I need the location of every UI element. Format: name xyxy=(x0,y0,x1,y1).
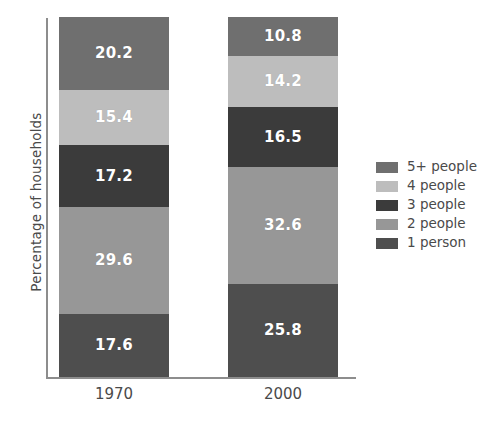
legend-item-label: 4 people xyxy=(407,179,466,193)
bar-stack: 10.8 14.2 16.5 32.6 25.8 xyxy=(228,17,338,377)
legend-item-label: 3 people xyxy=(407,198,466,212)
x-tick-label-1970: 1970 xyxy=(44,385,184,403)
legend-swatch-icon xyxy=(376,181,398,192)
bar-segment-1-person-1970[interactable]: 17.6 xyxy=(59,314,169,377)
bar-segment-value: 32.6 xyxy=(264,218,302,233)
legend-item-5plus-people[interactable]: 5+ people xyxy=(376,160,477,174)
legend-item-label: 2 people xyxy=(407,217,466,231)
bar-segment-4-people-2000[interactable]: 14.2 xyxy=(228,56,338,107)
legend-item-1-person[interactable]: 1 person xyxy=(376,236,477,250)
legend-item-label: 1 person xyxy=(407,236,466,250)
bar-segment-value: 14.2 xyxy=(264,74,302,89)
bar-segment-1-person-2000[interactable]: 25.8 xyxy=(228,284,338,377)
legend-swatch-icon xyxy=(376,162,398,173)
bar-segment-value: 10.8 xyxy=(264,29,302,44)
legend-item-label: 5+ people xyxy=(407,160,477,174)
bar-segment-2-people-2000[interactable]: 32.6 xyxy=(228,167,338,284)
bar-segment-2-people-1970[interactable]: 29.6 xyxy=(59,207,169,314)
legend-item-2-people[interactable]: 2 people xyxy=(376,217,477,231)
bar-segment-value: 25.8 xyxy=(264,323,302,338)
bar-segment-4-people-1970[interactable]: 15.4 xyxy=(59,90,169,145)
legend-swatch-icon xyxy=(376,238,398,249)
bar-segment-value: 15.4 xyxy=(95,110,133,125)
bar-column-2000: 10.8 14.2 16.5 32.6 25.8 xyxy=(228,17,338,377)
bar-segment-3-people-2000[interactable]: 16.5 xyxy=(228,107,338,166)
bar-segment-5plus-people-2000[interactable]: 10.8 xyxy=(228,17,338,56)
legend-swatch-icon xyxy=(376,200,398,211)
bar-segment-value: 20.2 xyxy=(95,46,133,61)
legend-item-3-people[interactable]: 3 people xyxy=(376,198,477,212)
bar-column-1970: 20.2 15.4 17.2 29.6 17.6 xyxy=(59,17,169,377)
bar-segment-value: 16.5 xyxy=(264,130,302,145)
bar-segment-5plus-people-1970[interactable]: 20.2 xyxy=(59,17,169,90)
bar-segment-value: 17.6 xyxy=(95,338,133,353)
x-tick-label-2000: 2000 xyxy=(213,385,353,403)
stacked-bar-chart: Percentage of households 20.2 15.4 17.2 … xyxy=(0,0,500,428)
bar-stack: 20.2 15.4 17.2 29.6 17.6 xyxy=(59,17,169,377)
bar-segment-value: 17.2 xyxy=(95,169,133,184)
legend-item-4-people[interactable]: 4 people xyxy=(376,179,477,193)
legend: 5+ people 4 people 3 people 2 people 1 p… xyxy=(376,160,477,250)
legend-swatch-icon xyxy=(376,219,398,230)
bar-segment-value: 29.6 xyxy=(95,253,133,268)
bar-segment-3-people-1970[interactable]: 17.2 xyxy=(59,145,169,207)
